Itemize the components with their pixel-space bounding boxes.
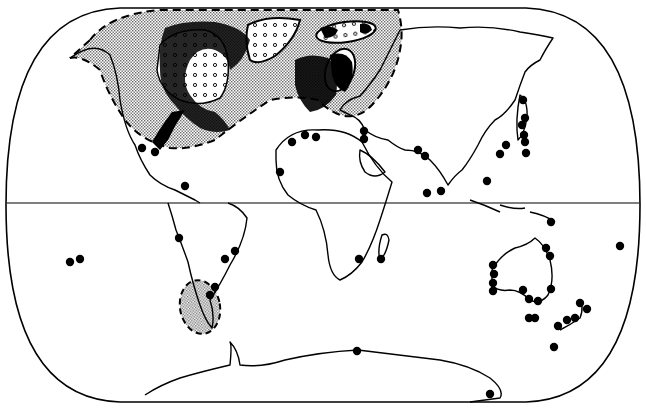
occurrence-point: [550, 343, 558, 351]
occurrence-point: [360, 127, 368, 135]
occurrence-point: [414, 146, 422, 154]
occurrence-point: [554, 322, 562, 330]
occurrence-point: [571, 314, 579, 322]
occurrence-point: [221, 255, 229, 263]
africa-coastline: [276, 130, 392, 280]
occurrence-point: [66, 258, 74, 266]
antarctica-coastline: [145, 342, 501, 402]
occurrence-point: [522, 149, 530, 157]
occurrence-point: [486, 390, 494, 398]
occurrence-point: [489, 279, 497, 287]
occurrence-point: [377, 255, 385, 263]
occurrence-point: [521, 138, 529, 146]
occurrence-point: [534, 297, 542, 305]
world-distribution-map: [0, 0, 646, 410]
occurrence-point: [489, 261, 497, 269]
map-canvas: [0, 0, 646, 410]
occurrence-point: [525, 295, 533, 303]
occurrence-point: [353, 347, 361, 355]
occurrence-point: [547, 285, 555, 293]
occurrence-point: [525, 314, 533, 322]
occurrence-point: [175, 234, 183, 242]
occurrence-point: [576, 299, 584, 307]
occurrence-point: [547, 218, 555, 226]
occurrence-point: [583, 305, 591, 313]
occurrence-point: [489, 287, 497, 295]
occurrence-point: [483, 177, 491, 185]
occurrence-point: [563, 316, 571, 324]
occurrence-point: [76, 255, 84, 263]
occurrence-point: [211, 283, 219, 291]
occurrence-point: [616, 242, 624, 250]
occurrence-point: [206, 291, 214, 299]
occurrence-point: [519, 286, 527, 294]
occurrence-point: [542, 244, 550, 252]
occurrence-point: [490, 270, 498, 278]
occurrence-point: [138, 144, 146, 152]
occurrence-point: [231, 247, 239, 255]
occurrence-point: [355, 255, 363, 263]
occurrence-point: [360, 135, 368, 143]
occurrence-point: [151, 148, 159, 156]
occurrence-point: [423, 189, 431, 197]
occurrence-point: [496, 150, 504, 158]
occurrence-point: [502, 141, 510, 149]
occurrence-point: [181, 182, 189, 190]
occurrence-point: [288, 138, 296, 146]
occurrence-point: [301, 131, 309, 139]
occurrence-point: [421, 152, 429, 160]
occurrence-point: [312, 133, 320, 141]
occurrence-point: [518, 121, 526, 129]
occurrence-point: [276, 168, 284, 176]
occurrence-point: [437, 187, 445, 195]
occurrence-point: [546, 252, 554, 260]
occurrence-point: [519, 96, 527, 104]
